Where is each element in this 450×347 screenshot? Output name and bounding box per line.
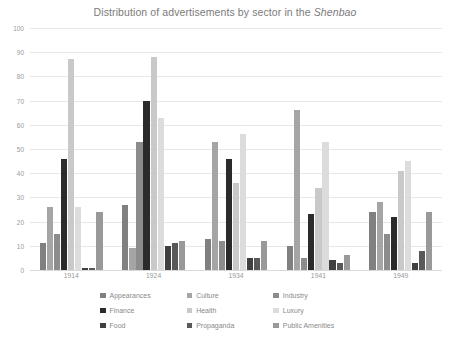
legend-swatch-icon (100, 308, 106, 314)
y-axis-tick-60: 60 (17, 121, 24, 128)
legend-label: Finance (110, 307, 135, 314)
bar-1949-appearances[interactable] (369, 212, 375, 270)
gridline-0 (30, 270, 442, 271)
legend-swatch-icon (273, 293, 279, 299)
y-axis-tick-30: 30 (17, 194, 24, 201)
bar-1949-luxury[interactable] (405, 161, 411, 270)
bar-1914-industry[interactable] (54, 234, 60, 270)
legend-swatch-icon (100, 323, 106, 329)
bar-1941-culture[interactable] (294, 110, 300, 270)
bar-1941-appearances[interactable] (287, 246, 293, 270)
chart-title-italic: Shenbao (314, 6, 357, 18)
x-axis-tick-1914: 1914 (30, 272, 112, 286)
x-axis-tick-1941: 1941 (277, 272, 359, 286)
y-axis-tick-20: 20 (17, 218, 24, 225)
bar-1934-propaganda[interactable] (254, 258, 260, 270)
bar-group-1941 (277, 28, 359, 270)
bar-1941-food[interactable] (329, 260, 335, 270)
bar-group-1914 (30, 28, 112, 270)
bar-1934-culture[interactable] (212, 142, 218, 270)
bar-1941-luxury[interactable] (322, 142, 328, 270)
y-axis-tick-90: 90 (17, 49, 24, 56)
legend-swatch-icon (100, 293, 106, 299)
bar-1924-appearances[interactable] (122, 205, 128, 270)
chart-container: Distribution of advertisements by sector… (0, 0, 450, 347)
bar-group-1934 (195, 28, 277, 270)
bar-1949-culture[interactable] (377, 202, 383, 270)
legend-item-luxury[interactable]: Luxury (273, 303, 360, 318)
legend-label: Public Amenities (283, 322, 334, 329)
bar-1924-luxury[interactable] (158, 118, 164, 270)
legend-label: Luxury (283, 307, 304, 314)
legend-label: Health (196, 307, 216, 314)
bar-1949-public-amenities[interactable] (426, 212, 432, 270)
legend-item-industry[interactable]: Industry (273, 288, 360, 303)
bar-group-1949 (360, 28, 442, 270)
bar-1914-finance[interactable] (61, 159, 67, 270)
bar-1914-propaganda[interactable] (89, 268, 95, 270)
legend-swatch-icon (187, 308, 193, 314)
legend-item-finance[interactable]: Finance (100, 303, 187, 318)
bar-1934-public-amenities[interactable] (261, 241, 267, 270)
x-axis-tick-1934: 1934 (195, 272, 277, 286)
legend-swatch-icon (273, 323, 279, 329)
legend-item-appearances[interactable]: Appearances (100, 288, 187, 303)
bar-1949-propaganda[interactable] (419, 251, 425, 270)
legend-item-health[interactable]: Health (187, 303, 274, 318)
bar-1934-finance[interactable] (226, 159, 232, 270)
legend-item-public-amenities[interactable]: Public Amenities (273, 318, 360, 333)
y-axis-tick-40: 40 (17, 170, 24, 177)
y-axis-tick-80: 80 (17, 73, 24, 80)
y-axis-tick-0: 0 (20, 267, 24, 274)
bar-1914-public-amenities[interactable] (96, 212, 102, 270)
legend-label: Appearances (110, 292, 151, 299)
bar-1934-health[interactable] (233, 183, 239, 270)
legend-item-food[interactable]: Food (100, 318, 187, 333)
y-axis: 1009080706050403020100 (0, 28, 28, 270)
bar-1924-food[interactable] (165, 246, 171, 270)
legend-item-culture[interactable]: Culture (187, 288, 274, 303)
legend-item-propaganda[interactable]: Propaganda (187, 318, 274, 333)
bar-1949-finance[interactable] (391, 217, 397, 270)
bar-1924-culture[interactable] (129, 248, 135, 270)
bar-1914-culture[interactable] (47, 207, 53, 270)
bar-1924-industry[interactable] (136, 142, 142, 270)
legend-swatch-icon (187, 323, 193, 329)
bar-1941-public-amenities[interactable] (344, 255, 350, 270)
bar-1934-industry[interactable] (219, 241, 225, 270)
legend-label: Propaganda (196, 322, 234, 329)
bar-1914-luxury[interactable] (75, 207, 81, 270)
bar-1924-health[interactable] (151, 57, 157, 270)
bar-1914-appearances[interactable] (40, 243, 46, 270)
bar-1949-health[interactable] (398, 171, 404, 270)
bar-1934-food[interactable] (247, 258, 253, 270)
bar-1949-industry[interactable] (384, 234, 390, 270)
legend-label: Food (110, 322, 126, 329)
chart-legend: AppearancesCultureIndustryFinanceHealthL… (100, 288, 360, 333)
x-axis-tick-1949: 1949 (360, 272, 442, 286)
bar-groups (30, 28, 442, 270)
bar-1941-health[interactable] (315, 188, 321, 270)
y-axis-tick-70: 70 (17, 97, 24, 104)
legend-label: Culture (196, 292, 219, 299)
bar-group-1924 (112, 28, 194, 270)
x-axis-tick-1924: 1924 (112, 272, 194, 286)
legend-label: Industry (283, 292, 308, 299)
bar-1934-appearances[interactable] (205, 239, 211, 270)
bar-1934-luxury[interactable] (240, 134, 246, 270)
bar-1924-finance[interactable] (143, 101, 149, 270)
bar-1914-health[interactable] (68, 59, 74, 270)
chart-title: Distribution of advertisements by sector… (0, 6, 450, 18)
bar-1924-propaganda[interactable] (172, 243, 178, 270)
y-axis-tick-100: 100 (13, 25, 24, 32)
bar-1949-food[interactable] (412, 263, 418, 270)
y-axis-tick-50: 50 (17, 146, 24, 153)
legend-swatch-icon (187, 293, 193, 299)
legend-swatch-icon (273, 308, 279, 314)
bar-1914-food[interactable] (82, 268, 88, 270)
bar-1924-public-amenities[interactable] (179, 241, 185, 270)
bar-1941-industry[interactable] (301, 258, 307, 270)
bar-1941-finance[interactable] (308, 214, 314, 270)
bar-1941-propaganda[interactable] (337, 263, 343, 270)
chart-title-plain: Distribution of advertisements by sector… (94, 6, 314, 18)
